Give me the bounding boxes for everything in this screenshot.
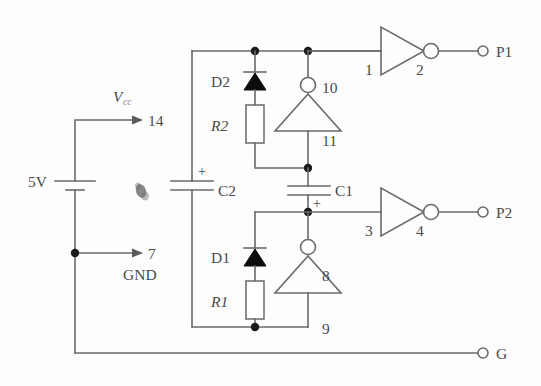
terminal-g-group — [478, 348, 488, 358]
wire-r2-to-c1-node — [255, 143, 308, 168]
label-source-5v: 5V — [28, 173, 48, 190]
d2-triangle — [244, 73, 266, 90]
label-pin-9: 9 — [322, 320, 330, 337]
inverter-p1-group — [308, 27, 488, 75]
circuit-diagram: 5V V cc 14 7 GND + C2 C1 + D2 R2 D1 R1 1… — [0, 0, 541, 386]
label-c2: C2 — [218, 182, 236, 199]
junction-dot-bottom-r1 — [251, 323, 259, 331]
d1-r1-branch-group — [244, 212, 266, 327]
label-pin-3: 3 — [365, 222, 373, 239]
label-pin-4: 4 — [416, 222, 424, 239]
label-pin-10: 10 — [322, 79, 338, 96]
schematic-canvas: 5V V cc 14 7 GND + C2 C1 + D2 R2 D1 R1 1… — [0, 0, 541, 386]
scan-smudge-artifact — [134, 183, 149, 201]
inverter-p1-bubble — [424, 44, 439, 59]
label-pin-7: 7 — [148, 245, 156, 262]
label-c1-polarity: + — [313, 196, 321, 211]
wire-vcc-branch — [75, 120, 132, 181]
inverter-p2-bubble — [424, 205, 439, 220]
terminal-p1-circle[interactable] — [478, 46, 488, 56]
label-c2-polarity: + — [198, 164, 206, 179]
label-terminal-p2: P2 — [496, 204, 512, 221]
arrowhead-gnd — [132, 249, 143, 258]
r1-body — [246, 281, 264, 319]
label-pin-11: 11 — [322, 132, 337, 149]
c2-branch-group — [171, 51, 213, 327]
label-vcc-subscript: cc — [123, 97, 132, 107]
inverter-lower-osc-bubble — [301, 240, 316, 255]
arrowhead-vcc — [132, 116, 143, 125]
inverter-upper-osc-triangle — [275, 94, 341, 131]
inverter-lower-osc-group — [275, 212, 341, 327]
d1-triangle — [244, 249, 266, 266]
inverter-upper-osc-group — [275, 51, 341, 172]
label-d1: D1 — [211, 249, 230, 266]
inverter-upper-osc-bubble — [301, 78, 316, 93]
d2-r2-branch-group — [244, 51, 308, 168]
label-terminal-g: G — [496, 345, 507, 362]
label-r2: R2 — [210, 117, 228, 134]
label-r1: R1 — [210, 293, 228, 310]
inverter-lower-osc-triangle — [275, 256, 341, 293]
label-pin-1: 1 — [365, 61, 373, 78]
label-pin-8: 8 — [322, 267, 330, 284]
inverter-p2-group — [381, 188, 488, 236]
c1-group — [288, 168, 330, 216]
bottom-inner-rail-group — [192, 323, 308, 331]
terminal-p2-circle[interactable] — [478, 207, 488, 217]
r2-body — [246, 105, 264, 143]
power-source-group — [55, 116, 478, 354]
junction-dot-gnd — [71, 249, 79, 257]
label-pin-14: 14 — [148, 112, 164, 129]
label-terminal-p1: P1 — [496, 43, 512, 60]
label-gnd: GND — [123, 266, 157, 283]
label-c1: C1 — [335, 182, 353, 199]
label-d2: D2 — [211, 73, 230, 90]
label-pin-2: 2 — [416, 61, 424, 78]
terminal-g-circle[interactable] — [478, 348, 488, 358]
